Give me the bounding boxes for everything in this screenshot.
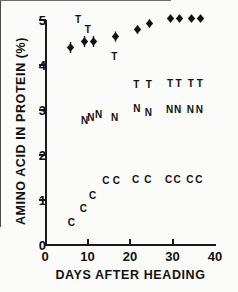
data-point-marker <box>87 35 100 48</box>
data-point-t: T <box>197 79 203 89</box>
data-point-marker <box>131 23 144 36</box>
plot-top-border <box>0 0 171 1</box>
x-tick-label: 20 <box>118 250 142 263</box>
data-point-n: N <box>196 105 203 115</box>
y-tick-label: 4 <box>30 59 46 72</box>
data-point-marker <box>194 12 207 25</box>
data-point-t: T <box>167 79 173 89</box>
data-point-c: C <box>186 175 193 185</box>
data-point-marker <box>64 41 77 54</box>
y-axis-line <box>45 20 47 246</box>
y-tick-label: 5 <box>30 14 46 27</box>
data-point-n: N <box>174 105 181 115</box>
data-point-t: T <box>146 80 152 90</box>
x-tick <box>172 239 174 246</box>
data-point-t: T <box>133 80 139 90</box>
x-tick-label: 40 <box>203 250 227 263</box>
x-tick-label: 0 <box>33 250 57 263</box>
x-tick <box>129 239 131 246</box>
y-axis-title: AMINO ACID IN PROTEIN (%) <box>14 17 28 245</box>
data-point-n: N <box>111 113 118 123</box>
y-tick-label: 3 <box>30 104 46 117</box>
data-point-c: C <box>68 218 75 228</box>
data-point-t: T <box>75 15 81 25</box>
plot-right-border <box>0 1 1 227</box>
data-point-n: N <box>87 113 94 123</box>
data-point-c: C <box>174 175 181 185</box>
x-tick <box>87 239 89 246</box>
data-point-c: C <box>102 176 109 186</box>
x-axis-title: DAYS AFTER HEADING <box>45 268 216 282</box>
data-point-n: N <box>187 105 194 115</box>
x-tick-label: 10 <box>76 250 100 263</box>
data-point-t: T <box>188 79 194 89</box>
data-point-c: C <box>80 204 87 214</box>
data-point-n: N <box>95 110 102 120</box>
data-point-marker <box>143 17 156 30</box>
data-point-marker <box>109 30 122 43</box>
data-point-n: N <box>145 108 152 118</box>
data-point-c: C <box>132 175 139 185</box>
y-tick-label: 2 <box>30 149 46 162</box>
data-point-n: N <box>166 105 173 115</box>
x-tick-label: 30 <box>161 250 185 263</box>
data-point-t: T <box>85 25 91 35</box>
chart-figure: 012345 010203040 TTTTTTTTTNNNNNNNNNNCCCC… <box>0 0 238 292</box>
data-point-c: C <box>89 191 96 201</box>
data-point-c: C <box>195 175 202 185</box>
data-point-c: C <box>113 176 120 186</box>
data-point-t: T <box>175 79 181 89</box>
data-point-c: C <box>165 175 172 185</box>
y-tick-label: 1 <box>30 194 46 207</box>
data-point-t: T <box>111 52 117 62</box>
data-point-n: N <box>133 104 140 114</box>
data-point-c: C <box>144 175 151 185</box>
